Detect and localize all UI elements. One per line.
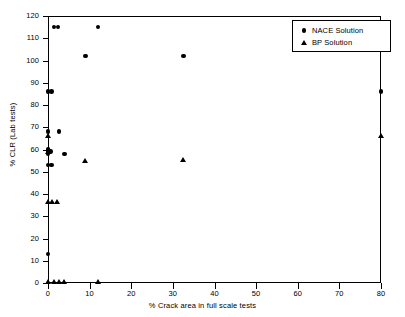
scatter-chart-figure: 0102030405060708090100110120 01020304050… [0, 0, 405, 317]
y-tick-label: 70 [13, 123, 39, 131]
data-point [45, 149, 51, 154]
chart-legend: NACE Solution BP Solution [292, 20, 391, 52]
y-tick-label: 20 [13, 235, 39, 243]
data-point [45, 133, 51, 138]
data-point [95, 279, 101, 284]
y-tick [43, 239, 49, 240]
x-axis-title: % Crack area in full scale tests [0, 301, 405, 310]
y-tick [43, 83, 49, 84]
data-point [83, 54, 88, 59]
legend-label-bp-solution: BP Solution [312, 38, 352, 47]
data-point [45, 279, 51, 284]
y-tick-label: 100 [13, 57, 39, 65]
legend-item-bp-solution[interactable]: BP Solution [299, 36, 390, 48]
x-tick-label: 0 [33, 290, 63, 298]
legend-triangle-icon [299, 37, 309, 47]
y-tick-label: 50 [13, 168, 39, 176]
y-tick-label: 30 [13, 212, 39, 220]
data-point [49, 89, 54, 94]
x-tick-label: 40 [200, 290, 230, 298]
y-tick [43, 216, 49, 217]
y-tick [43, 261, 49, 262]
y-tick [43, 16, 49, 17]
x-tick-label: 30 [158, 290, 188, 298]
y-tick-label: 10 [13, 257, 39, 265]
y-tick-label: 60 [13, 146, 39, 154]
x-tick-label: 70 [324, 290, 354, 298]
legend-circle-icon [299, 25, 309, 35]
data-point [378, 133, 384, 138]
y-tick-label: 0 [13, 279, 39, 287]
data-point [82, 158, 88, 163]
y-tick [43, 127, 49, 128]
data-point [49, 163, 54, 168]
y-axis-title: % CLR (Lab tests) [8, 75, 17, 195]
data-point [54, 199, 60, 204]
data-point [181, 54, 186, 59]
y-tick [43, 61, 49, 62]
y-tick-label: 120 [13, 12, 39, 20]
x-tick-label: 20 [116, 290, 146, 298]
y-tick [43, 105, 49, 106]
y-tick [43, 172, 49, 173]
x-tick-label: 10 [75, 290, 105, 298]
y-tick-label: 90 [13, 79, 39, 87]
legend-label-nace-solution: NACE Solution [312, 26, 363, 35]
x-tick-label: 50 [241, 290, 271, 298]
y-tick-label: 80 [13, 101, 39, 109]
plot-area [48, 16, 381, 283]
data-point [180, 157, 186, 162]
y-tick-label: 110 [13, 34, 39, 42]
x-tick-label: 80 [366, 290, 396, 298]
x-tick-label: 60 [283, 290, 313, 298]
y-tick [43, 38, 49, 39]
data-point [57, 129, 62, 134]
data-point [62, 152, 67, 157]
data-point [61, 279, 67, 284]
legend-item-nace-solution[interactable]: NACE Solution [299, 24, 390, 36]
data-point [379, 89, 384, 94]
y-tick [43, 194, 49, 195]
y-tick-label: 40 [13, 190, 39, 198]
